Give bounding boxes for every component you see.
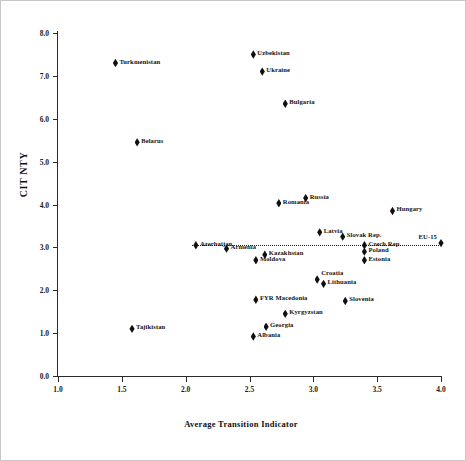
- x-tick-1.5: [122, 377, 123, 382]
- x-tick-label-4.0: 4.0: [426, 385, 456, 394]
- point-label: Georgia: [270, 321, 293, 328]
- y-tick-label-7.0: 7.0: [25, 72, 49, 81]
- y-tick-label-4.0: 4.0: [25, 201, 49, 210]
- x-tick-label-2.0: 2.0: [171, 385, 201, 394]
- point-label: Moldova: [260, 255, 286, 262]
- point-label: Uzbekistan: [257, 49, 290, 56]
- y-tick-label-1.0: 1.0: [25, 329, 49, 338]
- point-label: FYR Macedonia: [260, 294, 308, 301]
- point-label: EU-15: [419, 233, 437, 240]
- point-label: Romania: [283, 198, 309, 205]
- x-axis-title: Average Transition Indicator: [121, 419, 361, 429]
- diamond-marker-icon: [390, 207, 395, 215]
- y-tick-label-6.0: 6.0: [25, 115, 49, 124]
- y-tick-label-0.0: 0.0: [25, 372, 49, 381]
- x-tick-label-1.5: 1.5: [107, 385, 137, 394]
- x-tick-1.0: [58, 377, 59, 382]
- y-tick-label-8.0: 8.0: [25, 29, 49, 38]
- diamond-marker-icon: [343, 297, 348, 305]
- diamond-marker-icon: [283, 100, 288, 108]
- point-label: Turkmenistan: [119, 58, 160, 65]
- diamond-marker-icon: [260, 67, 265, 75]
- diamond-marker-icon: [193, 241, 198, 249]
- point-label: Tajikistan: [136, 323, 165, 330]
- point-label: Belarus: [141, 137, 163, 144]
- diamond-marker-icon: [253, 295, 258, 303]
- plot-area: TurkmenistanUzbekistanUkraineBulgariaBel…: [58, 33, 441, 376]
- diamond-marker-icon: [251, 332, 256, 340]
- diamond-marker-icon: [135, 138, 140, 146]
- point-label: Estonia: [368, 255, 390, 262]
- diamond-marker-icon: [113, 59, 118, 67]
- diamond-marker-icon: [264, 323, 269, 331]
- point-label: Azerbaijan: [200, 240, 233, 247]
- diamond-marker-icon: [362, 247, 367, 255]
- point-label: Albania: [257, 331, 280, 338]
- diamond-marker-icon: [276, 199, 281, 207]
- x-tick-label-1.0: 1.0: [43, 385, 73, 394]
- chart-figure: 0.01.02.03.04.05.06.07.08.0 1.01.52.02.5…: [0, 0, 466, 461]
- diamond-marker-icon: [283, 310, 288, 318]
- x-tick-label-3.0: 3.0: [298, 385, 328, 394]
- x-tick-2.0: [186, 377, 187, 382]
- point-label: Russia: [310, 193, 329, 200]
- point-label: Ukraine: [266, 66, 290, 73]
- x-tick-3.5: [377, 377, 378, 382]
- point-label: Lithuania: [328, 278, 357, 285]
- diamond-marker-icon: [362, 256, 367, 264]
- point-label: Slovak Rep.: [347, 231, 382, 238]
- diamond-marker-icon: [321, 280, 326, 288]
- point-label: Hungary: [396, 205, 422, 212]
- x-tick-2.5: [250, 377, 251, 382]
- x-tick-label-2.5: 2.5: [235, 385, 265, 394]
- diamond-marker-icon: [251, 50, 256, 58]
- diamond-marker-icon: [315, 275, 320, 283]
- y-axis-title: CIT NTY: [18, 115, 29, 235]
- x-tick-4.0: [441, 377, 442, 382]
- point-label: Armenia: [231, 243, 257, 250]
- point-label: Slovenia: [349, 295, 374, 302]
- point-label: Croatia: [321, 269, 343, 276]
- point-label: Bulgaria: [289, 98, 314, 105]
- x-tick-3.0: [313, 377, 314, 382]
- x-tick-label-3.5: 3.5: [362, 385, 392, 394]
- diamond-marker-icon: [253, 256, 258, 264]
- point-label: Latvia: [324, 227, 343, 234]
- diamond-marker-icon: [129, 325, 134, 333]
- y-tick-label-5.0: 5.0: [25, 158, 49, 167]
- point-label: Kyrgyzstan: [289, 308, 323, 315]
- diamond-marker-icon: [317, 228, 322, 236]
- point-label: Poland: [368, 246, 388, 253]
- y-tick-label-3.0: 3.0: [25, 243, 49, 252]
- y-tick-label-2.0: 2.0: [25, 286, 49, 295]
